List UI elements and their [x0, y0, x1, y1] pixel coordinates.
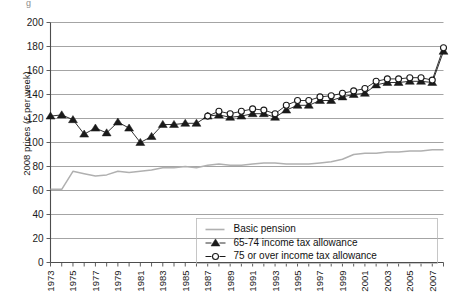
data-point-marker [68, 116, 77, 123]
data-point-marker [91, 124, 100, 131]
y-tick-label: 60 [32, 185, 44, 196]
y-tick-label: 140 [27, 89, 44, 100]
x-tick-label: 1975 [67, 271, 78, 292]
data-point-marker [283, 102, 289, 108]
x-tick-label: 1979 [112, 271, 123, 292]
figure-container: g 2008 prices (£ per week) 0204060801001… [0, 0, 452, 297]
y-tick-label: 80 [32, 161, 44, 172]
x-tick-label: 1973 [45, 271, 56, 292]
legend-item-label: Basic pension [234, 223, 296, 234]
y-tick-label: 160 [27, 65, 44, 76]
data-point-marker [362, 86, 368, 92]
data-point-marker [339, 90, 345, 96]
series-basic-pension [51, 150, 444, 190]
data-point-marker [418, 75, 424, 81]
x-tick-label: 1981 [135, 271, 146, 292]
x-tick-label: 2005 [404, 271, 415, 292]
data-point-marker [351, 88, 357, 94]
data-point-marker [384, 76, 390, 82]
data-point-marker [205, 113, 211, 119]
series-line [51, 51, 444, 142]
data-point-marker [328, 93, 334, 99]
x-tick-label: 1993 [270, 271, 281, 292]
data-point-marker [57, 111, 66, 118]
x-tick-label: 1977 [90, 271, 101, 292]
legend-item-label: 65-74 income tax allowance [234, 237, 358, 248]
x-tick-label: 1983 [157, 271, 168, 292]
y-tick-label: 180 [27, 41, 44, 52]
legend-item-label: 75 or over income tax allowance [234, 250, 378, 261]
data-point-marker [80, 130, 89, 137]
data-point-marker [295, 98, 301, 104]
x-tick-label: 2001 [359, 271, 370, 292]
data-point-marker [306, 98, 312, 104]
data-point-marker [272, 111, 278, 117]
data-point-marker [211, 239, 220, 246]
data-point-marker [250, 106, 256, 112]
y-tick-label: 20 [32, 233, 44, 244]
x-tick-label: 2003 [382, 271, 393, 292]
chart-plot: 020406080100120140160180200 197319751977… [0, 0, 452, 297]
data-point-marker [396, 76, 402, 82]
x-tick-label: 1995 [292, 271, 303, 292]
data-point-marker [113, 118, 122, 125]
data-point-marker [192, 119, 201, 126]
x-tick-label: 1991 [247, 271, 258, 292]
data-point-marker [216, 108, 222, 114]
data-point-marker [227, 111, 233, 117]
chart-legend: Basic pension65-74 income tax allowance7… [197, 219, 438, 264]
data-point-marker [238, 108, 244, 114]
data-point-marker [158, 120, 167, 127]
x-tick-label: 1989 [225, 271, 236, 292]
x-tick-label: 2007 [427, 271, 438, 292]
data-point-marker [429, 77, 435, 83]
x-tick-label: 1999 [337, 271, 348, 292]
data-point-marker [407, 75, 413, 81]
data-point-marker [181, 119, 190, 126]
y-tick-label: 120 [27, 113, 44, 124]
y-tick-label: 200 [27, 17, 44, 28]
series-65-74-income-tax-allowance [46, 47, 448, 145]
x-tick-label: 1985 [180, 271, 191, 292]
data-point-marker [317, 94, 323, 100]
series-line [51, 150, 444, 190]
x-tick-label: 1997 [314, 271, 325, 292]
data-point-marker [136, 138, 145, 145]
y-tick-label: 100 [27, 137, 44, 148]
x-tick-labels-group: 1973197519771979198119831985198719891991… [45, 263, 444, 292]
data-point-marker [261, 107, 267, 113]
y-tick-labels-group: 020406080100120140160180200 [27, 17, 51, 268]
data-point-marker [213, 254, 219, 260]
data-point-marker [441, 45, 447, 51]
data-point-marker [125, 124, 134, 131]
y-tick-label: 40 [32, 209, 44, 220]
data-point-marker [373, 78, 379, 84]
x-tick-label: 1987 [202, 271, 213, 292]
y-tick-label: 0 [38, 257, 44, 268]
